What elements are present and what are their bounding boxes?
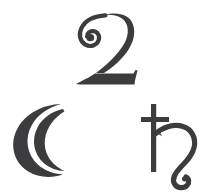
symbol-plate: Jupiter Moon Saturn (0, 0, 216, 195)
jupiter-symbol-icon (74, 13, 140, 89)
saturn-symbol-icon (136, 100, 202, 192)
crescent-moon-symbol-icon (8, 98, 72, 180)
